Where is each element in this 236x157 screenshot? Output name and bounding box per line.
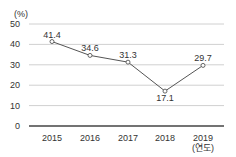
y-axis-unit-label: (%) [14,9,28,19]
y-tick-label: 10 [10,101,20,111]
y-tick-label: 50 [10,19,20,29]
x-tick-label: 2019 [193,133,213,143]
x-axis-ticks: 20152016201720182019 [42,133,213,143]
data-label: 34.6 [81,43,99,53]
data-point-marker [88,53,92,57]
y-tick-label: 20 [10,80,20,90]
y-tick-label: 40 [10,39,20,49]
data-label: 41.4 [43,30,61,40]
x-tick-label: 2017 [118,133,138,143]
data-label: 29.7 [194,53,212,63]
y-axis-ticks: 01020304050 [10,19,20,131]
data-point-marker [126,60,130,64]
data-label: 17.1 [156,93,174,103]
data-point-marker [201,63,205,67]
data-series: 41.434.631.317.129.7 [43,30,212,104]
x-tick-label: 2018 [155,133,175,143]
data-label: 31.3 [119,50,137,60]
line-chart: (%) 01020304050 20152016201720182019 (연도… [0,0,236,157]
series-line [52,42,203,92]
y-tick-label: 0 [15,121,20,131]
x-tick-label: 2016 [80,133,100,143]
x-axis-unit-label: (연도) [192,143,214,153]
data-point-marker [50,40,54,44]
y-tick-label: 30 [10,60,20,70]
x-tick-label: 2015 [42,133,62,143]
